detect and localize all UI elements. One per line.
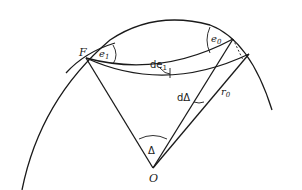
outer-surface-arc xyxy=(22,20,272,190)
label-de1: de1 xyxy=(150,59,167,72)
ray-path-2 xyxy=(86,54,249,75)
label-ddelta: dΔ xyxy=(177,92,190,103)
angle-arc-e1 xyxy=(113,45,116,64)
angle-arc-delta xyxy=(139,136,167,140)
radius-o-to-point-1 xyxy=(153,39,233,168)
angle-arc-ddelta xyxy=(194,102,204,103)
label-delta: Δ xyxy=(148,145,155,156)
label-e1: e1 xyxy=(99,48,109,61)
ray-geometry-diagram: F e1 e0 de1 dΔ r0 Δ O xyxy=(0,0,302,190)
angle-arc-e0 xyxy=(207,27,210,53)
label-r0: r0 xyxy=(221,86,231,99)
label-o: O xyxy=(149,172,158,185)
label-e0: e0 xyxy=(211,33,222,46)
label-f: F xyxy=(78,46,87,59)
